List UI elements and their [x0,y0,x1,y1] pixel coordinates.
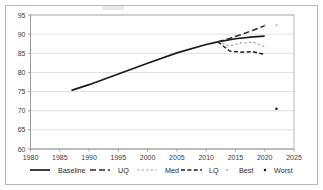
line-chart: 6065707580859095 19801985199019952000200… [6,6,319,186]
series-layer [71,24,277,110]
chart-legend: BaselineUQMedLQBestWorst [30,166,293,175]
x-tick-label: 1985 [52,154,68,161]
y-tick-label: 85 [18,50,26,57]
legend-label-uq: UQ [118,166,129,175]
y-tick-label: 80 [18,69,26,76]
series-best-marker [275,24,277,26]
legend-item-baseline: Baseline [30,166,86,175]
legend-label-lq: LQ [209,166,219,175]
legend-item-lq: LQ [181,166,219,175]
y-tick-label: 90 [18,31,26,38]
plot-border [31,15,295,149]
legend-swatch-best [226,169,228,171]
legend-label-worst: Worst [274,166,293,175]
x-tick-label: 2025 [286,154,302,161]
chart-frame: 6065707580859095 19801985199019952000200… [5,5,318,185]
legend-label-baseline: Baseline [58,166,86,175]
series-lq-line [218,42,265,55]
y-tick-label: 75 [18,88,26,95]
gridlines-group [31,15,295,149]
y-tick-label: 60 [18,146,26,153]
legend-swatch-worst [264,169,267,172]
x-tick-label: 2020 [257,154,273,161]
x-tick-label: 2000 [140,154,156,161]
legend-label-best: Best [239,166,253,175]
y-axis-ticks: 6065707580859095 [18,12,31,153]
series-uq-line [218,26,265,42]
y-tick-label: 70 [18,107,26,114]
legend-item-med: Med [137,166,179,175]
x-tick-label: 1990 [81,154,97,161]
x-tick-label: 1980 [23,154,39,161]
legend-item-worst: Worst [264,166,293,175]
series-worst-marker [275,108,278,111]
x-tick-label: 1995 [111,154,127,161]
series-med-line [218,42,265,47]
x-tick-label: 2005 [169,154,185,161]
legend-item-uq: UQ [90,166,129,175]
x-tick-label: 2010 [198,154,214,161]
y-tick-label: 65 [18,126,26,133]
legend-label-med: Med [165,166,179,175]
chart-plot-area: 6065707580859095 19801985199019952000200… [6,6,319,186]
y-tick-label: 95 [18,12,26,19]
x-tick-label: 2015 [228,154,244,161]
x-axis-ticks: 1980198519901995200020052010201520202025 [23,149,302,161]
series-best-marker [264,24,266,26]
legend-item-best: Best [226,166,253,175]
